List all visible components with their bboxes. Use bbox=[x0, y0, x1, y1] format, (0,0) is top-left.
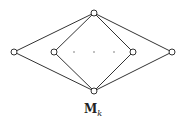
node-left bbox=[11, 49, 17, 55]
ellipsis-dot bbox=[73, 51, 74, 52]
node-bottom bbox=[91, 88, 97, 94]
node-inner-left bbox=[51, 49, 57, 55]
edge-bottom-inner-left bbox=[54, 52, 94, 91]
edge-bottom-right bbox=[94, 52, 172, 91]
label-main: M bbox=[84, 102, 97, 116]
node-top bbox=[91, 10, 97, 16]
edge-top-inner-left bbox=[54, 13, 94, 52]
nodes bbox=[11, 10, 175, 94]
node-inner-right bbox=[130, 49, 136, 55]
diagram-label: Mk bbox=[0, 102, 186, 118]
node-right bbox=[169, 49, 175, 55]
edge-top-inner-right bbox=[94, 13, 133, 52]
label-subscript: k bbox=[97, 109, 102, 118]
ellipsis-dot bbox=[113, 51, 114, 52]
edge-bottom-left bbox=[14, 52, 94, 91]
ellipsis-dot bbox=[93, 51, 94, 52]
ellipsis-dots bbox=[73, 51, 114, 52]
edges bbox=[14, 13, 172, 91]
edge-bottom-inner-right bbox=[94, 52, 133, 91]
edge-top-right bbox=[94, 13, 172, 52]
edge-top-left bbox=[14, 13, 94, 52]
